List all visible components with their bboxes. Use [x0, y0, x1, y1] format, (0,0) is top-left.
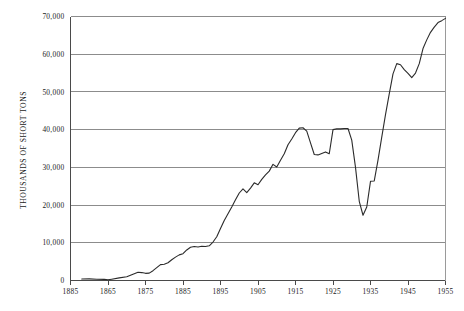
x-tick-label-6: 1915: [288, 287, 304, 296]
y-tick-label-20000: 20,000: [42, 201, 64, 210]
x-tick-label-10: 1955: [438, 287, 454, 296]
data-series-group: [82, 18, 446, 279]
y-tick-label-70000: 70,000: [42, 12, 64, 21]
y-tick-label-40000: 40,000: [42, 125, 64, 134]
x-tick-label-7: 1925: [325, 287, 341, 296]
chart-container: 010,00020,00030,00040,00050,00060,00070,…: [0, 0, 464, 311]
y-axis-title: THOUSANDS OF SHORT TONS: [19, 91, 28, 209]
y-tick-label-30000: 30,000: [42, 163, 64, 172]
y-tick-label-60000: 60,000: [42, 50, 64, 59]
x-axis-tick-labels: 1885186518751885189519051915192519351945…: [63, 287, 454, 296]
x-tick-label-2: 1875: [138, 287, 154, 296]
y-axis-tick-labels: 010,00020,00030,00040,00050,00060,00070,…: [42, 12, 64, 285]
data-line-production: [82, 18, 446, 279]
x-tick-label-1: 1865: [100, 287, 116, 296]
y-tick-label-10000: 10,000: [42, 238, 64, 247]
x-tick-label-3: 1885: [175, 287, 191, 296]
x-tick-label-8: 1935: [363, 287, 379, 296]
production-line-chart: 010,00020,00030,00040,00050,00060,00070,…: [0, 0, 464, 311]
y-tick-label-0: 0: [61, 276, 65, 285]
x-tick-label-4: 1895: [213, 287, 229, 296]
x-tick-label-5: 1905: [250, 287, 266, 296]
x-tick-label-0: 1885: [63, 287, 79, 296]
x-tick-marks: [71, 281, 446, 285]
plot-frame: [71, 17, 446, 281]
x-tick-label-9: 1945: [400, 287, 416, 296]
y-tick-label-50000: 50,000: [42, 88, 64, 97]
gridlines-group: [71, 17, 446, 243]
